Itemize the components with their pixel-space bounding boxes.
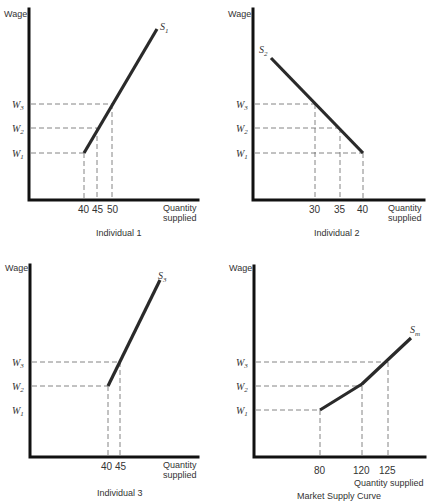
w3-label: W3 — [12, 357, 24, 370]
panel-caption: Individual 1 — [96, 228, 142, 238]
w1-label: W1 — [12, 405, 24, 418]
x-tick: 125 — [379, 465, 396, 476]
supply-curve-s2 — [271, 58, 363, 153]
w3-label: W3 — [12, 99, 24, 112]
x-tick: 50 — [107, 204, 119, 215]
curve-label: S1 — [160, 21, 169, 35]
w2-label: W2 — [12, 381, 24, 394]
supply-curve-s3 — [108, 280, 160, 386]
supply-curves-figure: Wage S1 W3 W2 W1 40 45 50 Quantity suppl… — [0, 0, 430, 503]
w2-label: W2 — [236, 123, 248, 136]
w1-label: W1 — [236, 148, 248, 161]
x-axis-label: supplied — [163, 470, 197, 480]
market-supply-curve-sm — [320, 338, 411, 410]
w2-label: W2 — [236, 381, 248, 394]
panel-market-supply: Wage Sm W3 W2 W1 80 120 125 Quantity sup… — [229, 263, 425, 501]
x-axis-label: Quantity — [163, 203, 197, 213]
x-tick: 40 — [78, 204, 90, 215]
x-axis-label: Quantity supplied — [354, 478, 424, 488]
axes — [254, 266, 425, 457]
x-axis-label: supplied — [388, 213, 422, 223]
supply-curve-s1 — [84, 29, 157, 153]
curve-label: Sm — [410, 324, 420, 338]
x-tick: 120 — [353, 465, 370, 476]
w2-label: W2 — [12, 123, 24, 136]
axes — [30, 265, 198, 457]
curve-label: S2 — [259, 44, 268, 58]
x-tick: 45 — [92, 204, 104, 215]
panel-individual-2: Wage S2 W3 W2 W1 30 35 40 Quantity suppl… — [228, 9, 424, 238]
axes — [253, 9, 424, 200]
x-tick: 45 — [115, 461, 127, 472]
panel-individual-3: Wage S3 W3 W2 W1 40 45 Quantity supplied… — [5, 263, 198, 498]
y-axis-label: Wage — [4, 9, 27, 19]
w1-label: W1 — [12, 148, 24, 161]
y-axis-label: Wage — [228, 9, 251, 19]
x-tick: 40 — [357, 204, 369, 215]
x-tick: 30 — [309, 204, 321, 215]
w3-label: W3 — [236, 99, 248, 112]
y-axis-label: Wage — [5, 263, 28, 273]
w1-label: W1 — [236, 405, 248, 418]
panel-individual-1: Wage S1 W3 W2 W1 40 45 50 Quantity suppl… — [4, 9, 198, 238]
panel-caption: Individual 3 — [97, 488, 143, 498]
w3-label: W3 — [236, 357, 248, 370]
y-axis-label: Wage — [229, 263, 252, 273]
panel-caption: Individual 2 — [314, 228, 360, 238]
x-tick: 40 — [101, 461, 113, 472]
x-tick: 35 — [334, 204, 346, 215]
x-axis-label: Quantity — [388, 203, 422, 213]
x-axis-label: Quantity — [163, 460, 197, 470]
x-axis-label: supplied — [163, 213, 197, 223]
x-tick: 80 — [314, 465, 326, 476]
panel-caption: Market Supply Curve — [297, 491, 381, 501]
